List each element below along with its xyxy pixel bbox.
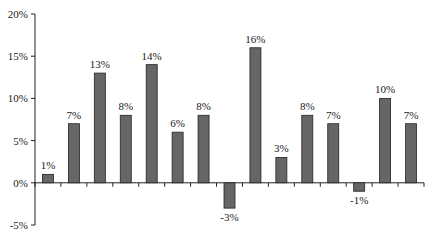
bar: [406, 124, 417, 183]
data-label: 7%: [404, 109, 419, 121]
data-label: 3%: [274, 142, 289, 154]
y-tick-label: 20%: [8, 8, 28, 20]
data-label: 8%: [196, 100, 211, 112]
data-label: 14%: [142, 50, 162, 62]
data-label: 8%: [118, 100, 133, 112]
bar: [380, 98, 391, 182]
bar: [276, 157, 287, 182]
bars: [42, 48, 416, 208]
y-tick-label: -5%: [10, 219, 28, 231]
data-label: 13%: [90, 58, 110, 70]
data-label: 10%: [375, 83, 395, 95]
data-label: -3%: [220, 211, 238, 223]
data-label: 1%: [41, 159, 56, 171]
bar: [68, 124, 79, 183]
bar: [94, 73, 105, 183]
bar: [198, 115, 209, 183]
bar: [120, 115, 131, 183]
y-tick-label: 0%: [13, 177, 28, 189]
bar: [354, 183, 365, 191]
bar: [328, 124, 339, 183]
bar: [172, 132, 183, 183]
data-label: 7%: [326, 109, 341, 121]
bar-chart: -5%0%5%10%15%20% 1%7%13%8%14%6%8%-3%16%3…: [0, 0, 428, 236]
y-tick-label: 5%: [13, 135, 28, 147]
bar: [250, 48, 261, 183]
data-label: 16%: [245, 33, 265, 45]
data-label: 8%: [300, 100, 315, 112]
bar: [146, 65, 157, 183]
bar: [224, 183, 235, 208]
y-axis: -5%0%5%10%15%20%: [8, 8, 35, 231]
y-tick-label: 15%: [8, 50, 28, 62]
y-tick-label: 10%: [8, 92, 28, 104]
data-label: -1%: [350, 194, 368, 206]
data-label: 6%: [170, 117, 185, 129]
bar: [42, 174, 53, 182]
bar: [302, 115, 313, 183]
data-label: 7%: [67, 109, 82, 121]
